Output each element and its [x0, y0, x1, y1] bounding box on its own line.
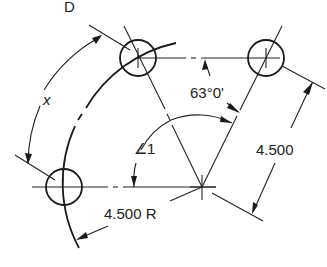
figure-label: D [64, 0, 75, 15]
extension-line-x-bottom [15, 155, 55, 180]
radial-line-top-left [124, 26, 202, 187]
arc-length-label: x [42, 91, 51, 108]
pivot-center-mark [190, 175, 216, 200]
radius-label: 4.500 R [104, 205, 157, 222]
chord-label: 4.500 [256, 141, 294, 158]
angle-63-label: 63°0' [190, 84, 224, 101]
angle-1-label: ∠1 [134, 140, 155, 157]
hole-pattern-drawing: D [0, 0, 327, 267]
radial-line-top-right [202, 26, 282, 187]
